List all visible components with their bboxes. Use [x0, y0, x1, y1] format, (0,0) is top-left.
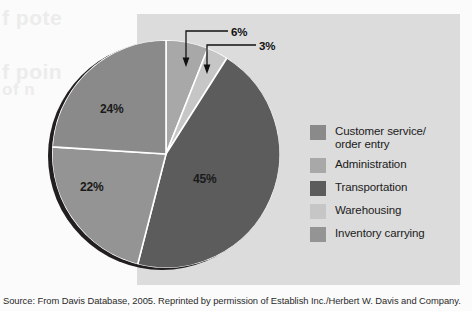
pie-chart — [48, 40, 282, 274]
legend-swatch-warehousing — [310, 204, 326, 219]
legend-label-transportation: Transportation — [335, 180, 407, 194]
ghost-text-line3: of n — [2, 80, 35, 100]
pie-slices — [52, 40, 280, 268]
slice-label-customer-service: 24% — [100, 102, 123, 116]
slice-label-transportation: 45% — [193, 172, 216, 186]
legend-swatch-administration — [310, 158, 326, 173]
legend-label-customer-service: Customer service/ order entry — [335, 124, 426, 150]
legend-label-warehousing: Warehousing — [335, 203, 401, 217]
legend-label-line1: Customer service/ — [335, 125, 426, 137]
legend-swatch-customer-service — [310, 125, 326, 140]
legend-label-inventory-carrying: Inventory carrying — [335, 226, 425, 240]
pie-slice[interactable] — [52, 40, 166, 154]
legend-label-line2: order entry — [335, 138, 390, 150]
ghost-text-line1: f pote — [2, 6, 62, 30]
callout-label-warehousing: 3% — [259, 40, 275, 52]
legend-item-warehousing[interactable]: Warehousing — [310, 203, 462, 219]
legend-item-inventory-carrying[interactable]: Inventory carrying — [310, 226, 462, 242]
legend-swatch-inventory-carrying — [310, 227, 326, 242]
source-note: Source: From Davis Database, 2005. Repri… — [3, 295, 461, 306]
pie-svg — [52, 40, 280, 268]
chart-legend: Customer service/ order entry Administra… — [310, 124, 462, 242]
legend-label-administration: Administration — [335, 157, 406, 171]
slice-label-inventory-carrying: 22% — [80, 180, 103, 194]
legend-item-customer-service[interactable]: Customer service/ order entry — [310, 124, 462, 150]
callout-label-administration: 6% — [231, 26, 247, 38]
legend-item-administration[interactable]: Administration — [310, 157, 462, 173]
legend-item-transportation[interactable]: Transportation — [310, 180, 462, 196]
legend-swatch-transportation — [310, 181, 326, 196]
